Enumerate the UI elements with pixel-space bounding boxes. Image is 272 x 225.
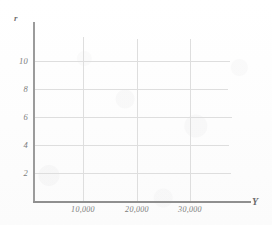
gridline-horizontal-6 [34, 117, 232, 118]
gridline-horizontal-4 [34, 145, 229, 146]
y-tick-label: 2 [4, 168, 28, 178]
x-tick-label: 30,000 [160, 205, 220, 214]
x-tick-label: 20,000 [107, 205, 167, 214]
y-tick-label: 10 [4, 56, 28, 66]
y-axis-line [33, 22, 35, 203]
gridline-horizontal-10 [34, 61, 230, 62]
x-tick-label: 10,000 [53, 205, 113, 214]
gridline-horizontal-2 [34, 173, 231, 174]
paper-texture [0, 0, 272, 225]
x-axis-line [33, 201, 251, 203]
gridline-vertical-30000 [190, 39, 191, 201]
gridline-horizontal-8 [34, 89, 228, 90]
y-tick-label: 6 [4, 112, 28, 122]
y-tick-label: 8 [4, 84, 28, 94]
graph-figure: r Y 10 8 6 4 2 10,000 20,000 30,000 [0, 0, 272, 225]
x-axis-label: Y [252, 196, 258, 207]
gridline-vertical-20000 [137, 39, 138, 201]
y-tick-label: 4 [4, 140, 28, 150]
gridline-vertical-10000 [83, 37, 84, 201]
y-axis-tick-labels: 10 8 6 4 2 [0, 0, 28, 225]
